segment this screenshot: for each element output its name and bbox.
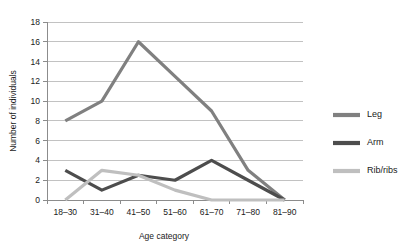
legend: LegArmRib/ribs	[333, 109, 398, 175]
x-tick-label-1: 31–40	[90, 207, 114, 217]
chart-canvas: 024681012141618 18–3031–4041–5051–6061–7…	[0, 0, 406, 250]
y-tick-label-2: 2	[35, 175, 40, 185]
y-axis-title: Number of individuals	[8, 70, 18, 152]
y-axis-group: 024681012141618	[31, 17, 47, 205]
legend-label-leg: Leg	[367, 109, 382, 119]
y-tick-label-0: 0	[35, 195, 40, 205]
y-tick-label-14: 14	[31, 57, 41, 67]
x-tick-label-0: 18–30	[53, 207, 77, 217]
y-tick-label-10: 10	[31, 96, 41, 106]
y-tick-label-4: 4	[35, 155, 40, 165]
y-tick-label-16: 16	[31, 37, 41, 47]
x-axis-title: Age category	[139, 231, 190, 241]
y-tick-label-18: 18	[31, 17, 41, 27]
legend-label-rib-ribs: Rib/ribs	[367, 165, 398, 175]
x-tick-label-2: 41–50	[127, 207, 151, 217]
y-tick-label-6: 6	[35, 136, 40, 146]
x-tick-label-5: 71–80	[236, 207, 260, 217]
legend-label-arm: Arm	[367, 137, 384, 147]
x-tick-label-3: 51–60	[163, 207, 187, 217]
line-chart: 024681012141618 18–3031–4041–5051–6061–7…	[0, 0, 406, 250]
x-tick-label-4: 61–70	[200, 207, 224, 217]
x-axis-group: 18–3031–4041–5051–6061–7071–8081–90	[47, 200, 303, 217]
y-tick-label-12: 12	[31, 76, 41, 86]
y-tick-label-8: 8	[35, 116, 40, 126]
x-tick-label-6: 81–90	[273, 207, 297, 217]
